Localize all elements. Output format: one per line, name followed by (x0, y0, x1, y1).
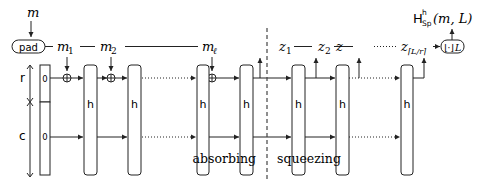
output-block-z1: z 1 (278, 39, 292, 56)
svg-text:1: 1 (68, 46, 74, 56)
svg-text:z: z (335, 39, 343, 54)
sponge-diagram: m pad m 1 m 2 m ℓ r c 0 0 (0, 0, 487, 181)
output-label: H h Sp (m, L) (413, 8, 472, 28)
message-block-ml: m ℓ (202, 39, 217, 56)
svg-text:h: h (404, 98, 411, 111)
output-block-z3: z (335, 39, 343, 54)
message-block-m2: m 2 (100, 39, 117, 56)
rate-label: r (20, 71, 25, 85)
svg-text:2: 2 (325, 46, 331, 56)
truncate-floor: ⌊·⌋ (444, 43, 454, 53)
capacity-init: 0 (42, 132, 47, 142)
svg-text:1: 1 (286, 46, 292, 56)
svg-text:h: h (243, 98, 250, 111)
permutation-block: h (401, 65, 413, 175)
permutation-block: h (84, 65, 97, 175)
svg-text:h: h (87, 98, 94, 111)
svg-text:h: h (422, 8, 427, 17)
output-block-z2: z 2 (317, 39, 331, 56)
svg-text:z: z (400, 39, 408, 54)
xor-icon (63, 74, 71, 82)
svg-text:h: h (131, 98, 138, 111)
svg-text:z: z (278, 39, 286, 54)
svg-text:ℓ: ℓ (213, 46, 217, 56)
svg-text:z: z (317, 39, 325, 54)
rate-init: 0 (42, 74, 47, 84)
output-block-zL: z ⌈L/r⌉ (400, 39, 427, 56)
svg-text:⌈L/r⌉: ⌈L/r⌉ (408, 47, 427, 56)
svg-text:(m, L): (m, L) (433, 11, 472, 26)
svg-text:h: h (339, 98, 346, 111)
message-block-m1: m 1 (57, 39, 74, 56)
svg-text:2: 2 (111, 46, 117, 56)
capacity-label: c (19, 129, 26, 143)
svg-text:Sp: Sp (422, 19, 432, 28)
xor-icon (107, 74, 115, 82)
message-label: m (27, 5, 39, 20)
permutation-block: h (128, 65, 141, 175)
truncate-length: L (454, 42, 461, 53)
svg-text:h: h (295, 98, 302, 111)
pad-label: pad (19, 42, 38, 53)
absorbing-label: absorbing (193, 151, 256, 166)
svg-text:h: h (200, 98, 207, 111)
squeezing-label: squeezing (277, 151, 341, 166)
